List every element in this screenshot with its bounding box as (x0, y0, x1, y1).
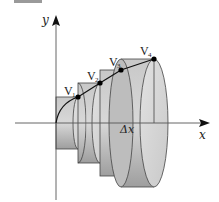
y-axis-label: y (41, 13, 49, 27)
svg-text:2: 2 (95, 76, 99, 84)
cropped-remnant (14, 0, 42, 3)
disk-method-diagram: y x Δx V 1 V 2 V 3 V 4 (0, 0, 219, 202)
delta-x-label: Δx (119, 123, 135, 136)
label-v1: V 1 (64, 84, 76, 99)
point-v1 (75, 94, 80, 99)
svg-text:1: 1 (72, 91, 76, 99)
label-v2: V 2 (87, 69, 99, 84)
label-v4: V 4 (140, 44, 152, 59)
point-v4 (151, 56, 156, 61)
x-axis-label: x (199, 128, 206, 142)
label-v3: V 3 (109, 55, 121, 70)
svg-text:3: 3 (117, 62, 121, 70)
svg-text:4: 4 (148, 51, 152, 59)
